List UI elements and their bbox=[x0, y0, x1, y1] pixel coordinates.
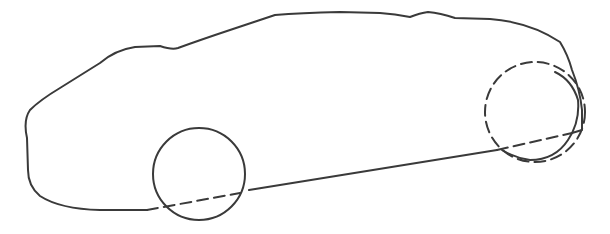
car-sill-line bbox=[249, 150, 497, 190]
rear-wheel-hidden-circle bbox=[485, 62, 585, 162]
car-outline-drawing bbox=[0, 0, 610, 234]
car-sketch-canvas bbox=[0, 0, 610, 234]
